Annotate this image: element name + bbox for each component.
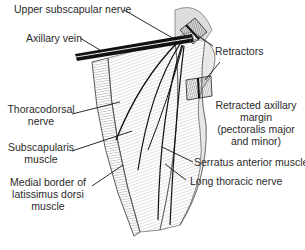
label-serratus-anterior-muscle: Serratus anterior muscle: [194, 156, 305, 168]
label-medial-border-latissimus-dorsi: Medial border of latissimus dorsi muscle: [2, 176, 94, 212]
label-long-thoracic-nerve: Long thoracic nerve: [190, 175, 282, 187]
label-axillary-vein: Axillary vein: [26, 32, 82, 44]
lower-retractor: [186, 76, 212, 100]
label-upper-subscapular-nerve: Upper subscapular nerve: [14, 3, 131, 15]
label-thoracodorsal-nerve: Thoracodorsal nerve: [6, 103, 76, 127]
label-retractors: Retractors: [215, 45, 263, 57]
label-subscapularis-muscle: Subscapularis muscle: [6, 141, 76, 165]
label-retracted-axillary-margin: Retracted axillary margin (pectoralis ma…: [210, 99, 302, 147]
